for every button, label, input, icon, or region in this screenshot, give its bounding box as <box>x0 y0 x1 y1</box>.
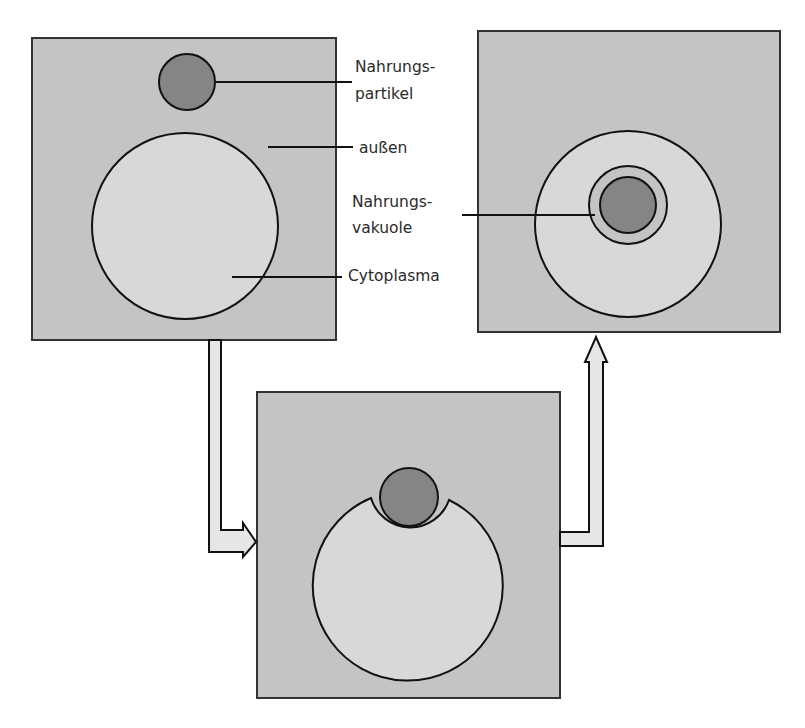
arrow-stage1-to-stage2 <box>209 340 256 557</box>
label-food-particle-line1: Nahrungs- <box>355 57 435 77</box>
stage-2-food-particle <box>380 468 438 526</box>
label-cytoplasm: Cytoplasma <box>348 266 440 286</box>
label-food-vacuole-line2: vakuole <box>352 218 412 238</box>
stage-1-cell <box>92 133 278 319</box>
label-food-particle-line2: partikel <box>355 84 413 104</box>
arrow-stage2-to-stage3 <box>560 337 607 546</box>
stage-3-food-particle <box>600 177 656 233</box>
label-food-vacuole-line1: Nahrungs- <box>352 192 432 212</box>
label-outside: außen <box>359 138 407 158</box>
stage-1-food-particle <box>159 54 215 110</box>
stage-2-panel <box>257 392 560 698</box>
stage-1-panel <box>32 38 353 340</box>
stage-3-panel <box>462 31 780 332</box>
phagocytosis-diagram <box>0 0 805 728</box>
